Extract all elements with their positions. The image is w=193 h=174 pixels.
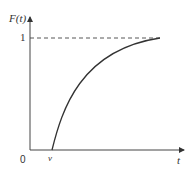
cdf-chart <box>0 0 193 174</box>
origin-label: 0 <box>20 155 26 165</box>
x-tick-nu: ν <box>48 154 52 163</box>
y-axis-label: F(t) <box>9 13 26 24</box>
cdf-curve <box>52 38 160 150</box>
x-axis-label: t <box>177 155 180 166</box>
y-tick-one: 1 <box>20 32 26 43</box>
